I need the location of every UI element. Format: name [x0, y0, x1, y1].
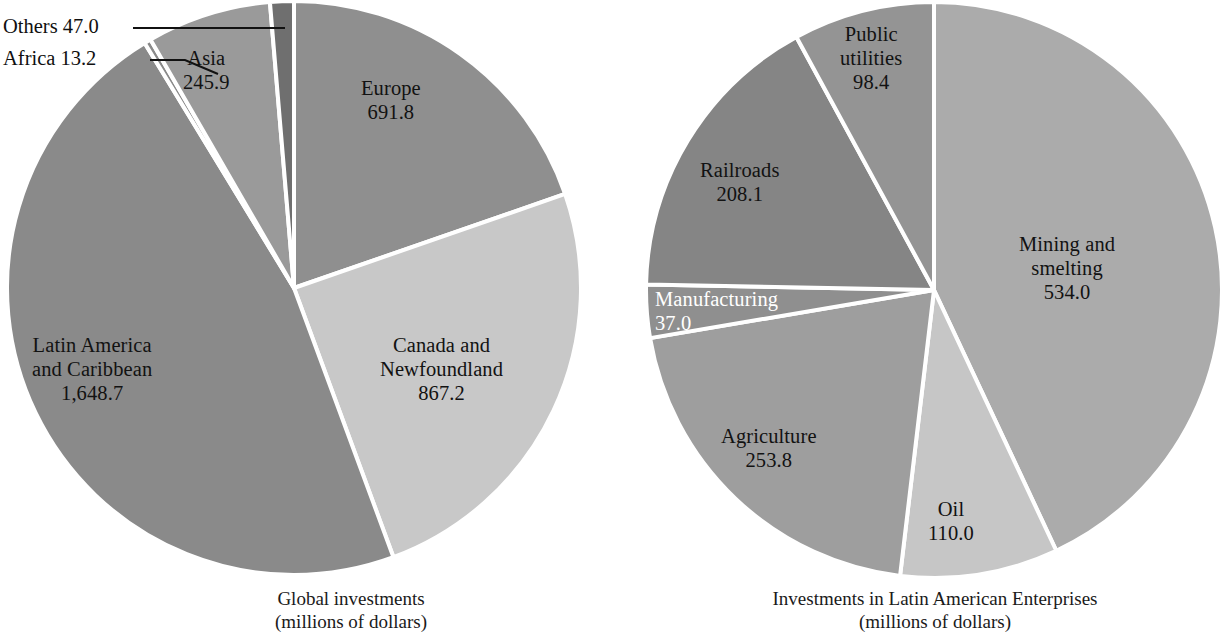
slice-label-manufacturing: Manufacturing 37.0: [655, 287, 778, 335]
pie-global-investments: [7, 1, 581, 575]
left-caption: Global investments (millions of dollars): [206, 588, 496, 634]
slice-label-oil: Oil 110.0: [928, 497, 974, 545]
slice-label-asia: Asia 245.9: [183, 46, 230, 94]
slice-label-railroads: Railroads 208.1: [700, 158, 779, 206]
slice-callout-africa: Africa 13.2: [3, 47, 96, 70]
right-caption: Investments in Latin American Enterprise…: [690, 588, 1180, 634]
slice-label-canada-and-newfoundland: Canada and Newfoundland 867.2: [380, 333, 503, 406]
slice-label-europe: Europe 691.8: [361, 76, 421, 124]
slice-label-agriculture: Agriculture 253.8: [721, 424, 817, 472]
slice-callout-others: Others 47.0: [3, 15, 99, 38]
slice-label-public-utilities: Public utilities 98.4: [840, 22, 902, 95]
slice-label-mining-and-smelting: Mining and smelting 534.0: [1019, 232, 1115, 305]
slice-label-latin-america-and-caribbean: Latin America and Caribbean 1,648.7: [32, 333, 152, 406]
